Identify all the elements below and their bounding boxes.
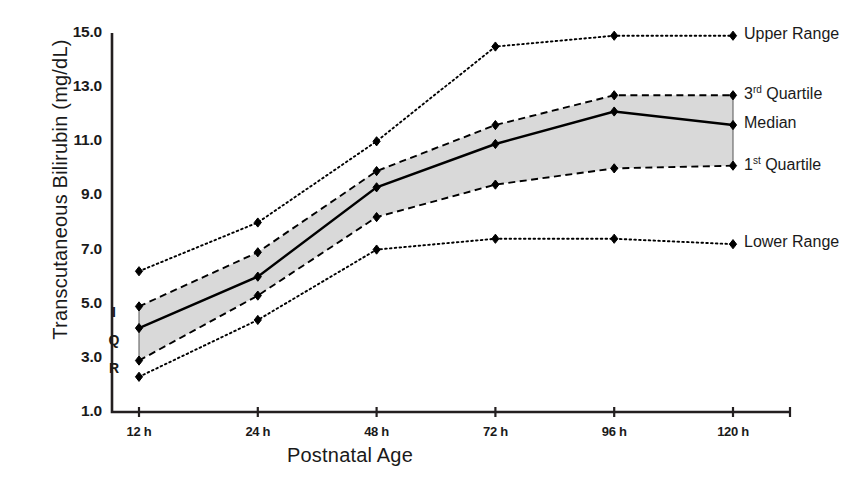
iqr-shaded-band [139, 95, 733, 360]
data-point-marker [254, 218, 261, 227]
data-point-marker [135, 323, 142, 332]
data-point-marker [729, 120, 736, 129]
x-tick-label: 12 h [104, 424, 174, 439]
legend-label-1st-quartile: 1st Quartile [744, 155, 821, 174]
data-point-marker [492, 139, 499, 148]
chart-root: Transcutaneous Bilirubin (mg/dL) Postnat… [0, 0, 865, 481]
data-point-marker [254, 272, 261, 281]
data-point-marker [611, 164, 618, 173]
x-tick-label: 96 h [579, 424, 649, 439]
iqr-letter-r: R [103, 360, 125, 376]
x-tick-label: 48 h [342, 424, 412, 439]
y-tick-label: 3.0 [46, 348, 102, 366]
data-point-marker [611, 91, 618, 100]
data-point-marker [254, 315, 261, 324]
series-line-median [139, 112, 733, 329]
legend-label-3rd-quartile: 3rd Quartile [744, 84, 822, 103]
data-point-marker [492, 42, 499, 51]
y-tick-label: 1.0 [46, 402, 102, 420]
data-point-marker [492, 180, 499, 189]
data-point-marker [729, 240, 736, 249]
y-tick-label: 11.0 [46, 131, 102, 149]
data-point-marker [729, 91, 736, 100]
x-tick-label: 120 h [698, 424, 768, 439]
data-point-marker [254, 291, 261, 300]
axis-lines [112, 33, 790, 412]
data-point-marker [492, 234, 499, 243]
y-tick-label: 15.0 [46, 23, 102, 41]
x-tick-label: 24 h [223, 424, 293, 439]
data-point-marker [373, 245, 380, 254]
data-point-marker [135, 267, 142, 276]
data-point-marker [729, 31, 736, 40]
data-point-marker [373, 137, 380, 146]
data-point-marker [373, 183, 380, 192]
x-tick-label: 72 h [460, 424, 530, 439]
y-tick-label: 13.0 [46, 77, 102, 95]
data-point-marker [254, 248, 261, 257]
data-point-marker [135, 372, 142, 381]
legend-label-upper-range: Upper Range [744, 25, 839, 43]
data-point-marker [373, 212, 380, 221]
data-point-marker [611, 31, 618, 40]
data-point-marker [135, 302, 142, 311]
data-point-marker [611, 107, 618, 116]
data-point-marker [611, 234, 618, 243]
data-point-marker [373, 166, 380, 175]
series-line-3rd-quartile [139, 95, 733, 306]
series-line-lower-range [139, 239, 733, 377]
legend-label-median: Median [744, 114, 796, 132]
data-point-marker [492, 120, 499, 129]
y-tick-label: 5.0 [46, 294, 102, 312]
chart-plot-area [0, 0, 865, 481]
legend-label-lower-range: Lower Range [744, 233, 839, 251]
series-line-1st-quartile [139, 166, 733, 361]
series-line-upper-range [139, 36, 733, 272]
x-axis-title: Postnatal Age [0, 444, 700, 467]
iqr-letter-q: Q [103, 332, 125, 348]
y-tick-label: 7.0 [46, 240, 102, 258]
data-point-marker [135, 356, 142, 365]
iqr-letter-i: I [103, 304, 125, 320]
legend-superscript: st [753, 155, 761, 166]
legend-superscript: rd [753, 84, 762, 95]
data-point-marker [729, 161, 736, 170]
y-tick-label: 9.0 [46, 185, 102, 203]
